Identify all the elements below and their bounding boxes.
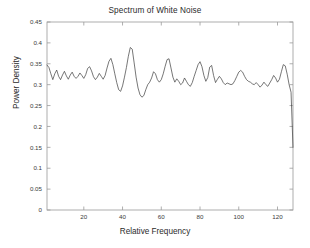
x-tick-label: 120 (272, 213, 283, 220)
y-axis-label: Power Density (12, 23, 21, 143)
x-tick-label: 100 (234, 213, 245, 220)
x-tick-label: 80 (197, 213, 204, 220)
y-tick-label: 0.3 (33, 81, 42, 88)
x-axis-label: Relative Frequency (0, 227, 310, 236)
y-tick-label: 0.35 (30, 60, 43, 67)
y-tick-label: 0.45 (30, 18, 43, 25)
y-tick-label: 0.4 (33, 39, 42, 46)
plot-area: 00.050.10.150.20.250.30.350.40.45 204060… (0, 0, 310, 248)
y-tick-label: 0.15 (30, 144, 43, 151)
figure-canvas: Spectrum of White Noise 00.050.10.150.20… (0, 0, 310, 248)
y-tick-label: 0.1 (33, 164, 42, 171)
y-tick-label: 0.25 (30, 102, 43, 109)
x-tick-label: 20 (80, 213, 87, 220)
plot-frame (47, 22, 293, 210)
y-tick-label: 0.2 (33, 123, 42, 130)
y-tick-label: 0.05 (30, 185, 43, 192)
x-tick-label: 40 (119, 213, 126, 220)
x-tick-label: 60 (158, 213, 165, 220)
y-tick-label: 0 (39, 206, 43, 213)
